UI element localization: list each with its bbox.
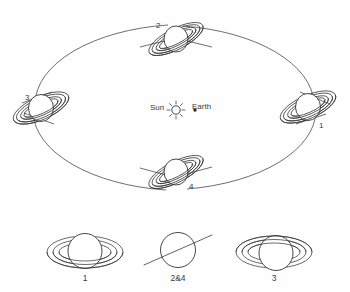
diagram-canvas bbox=[0, 0, 350, 292]
orbit-position-label-3: 3 bbox=[25, 94, 29, 102]
orbit-position-label-2: 2 bbox=[156, 22, 160, 30]
appearance-label-24: 2&4 bbox=[158, 274, 198, 283]
earth-label: Earth bbox=[192, 103, 211, 111]
appearance-label-3: 3 bbox=[254, 274, 294, 283]
orbit-position-label-4: 4 bbox=[189, 183, 193, 191]
saturn-position-2 bbox=[145, 16, 208, 62]
appearance-view-3 bbox=[236, 236, 312, 271]
appearance-view-24 bbox=[144, 233, 212, 268]
orbit-position-label-1: 1 bbox=[319, 122, 323, 130]
saturn-orbit-diagram: Sun Earth 1 2 3 4 1 2&4 3 bbox=[0, 0, 350, 292]
sun-label: Sun bbox=[150, 104, 164, 112]
appearance-label-1: 1 bbox=[65, 274, 105, 283]
saturn-position-3 bbox=[9, 85, 73, 130]
saturn-position-1 bbox=[276, 84, 340, 129]
sun-icon bbox=[167, 101, 185, 119]
appearance-view-1 bbox=[47, 234, 123, 269]
